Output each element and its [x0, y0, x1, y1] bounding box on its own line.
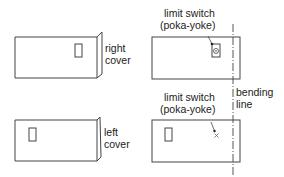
- top-fixture: [152, 36, 240, 79]
- top-callout-line2: (poka-yoke): [160, 19, 215, 31]
- right-cover-label-line2: cover: [105, 54, 131, 66]
- bottom-callout-line1: limit switch: [164, 91, 215, 103]
- top-fixture-plate: [152, 37, 240, 79]
- left-cover-part: [15, 117, 101, 161]
- top-callout-line1: limit switch: [164, 7, 215, 19]
- left-cover-bent-edge: [97, 117, 101, 161]
- right-cover-part: [15, 32, 102, 78]
- right-cover-label-line1: right: [105, 42, 126, 54]
- limit-switch-center-dot: [215, 50, 217, 52]
- bottom-callout-arrowhead: [213, 130, 215, 132]
- bottom-callout-line2: (poka-yoke): [160, 103, 215, 115]
- right-cover-hole: [75, 44, 82, 57]
- bottom-fixture-hole: [165, 128, 172, 141]
- left-cover-label-line2: cover: [104, 138, 130, 150]
- bending-line-label-line2: line: [236, 98, 253, 110]
- left-cover-label-line1: left: [104, 126, 118, 138]
- bending-line-label-line1: bending: [236, 86, 274, 98]
- poka-yoke-diagram: right cover limit switch (poka-yoke) lef…: [0, 0, 284, 177]
- left-cover-body: [15, 120, 97, 161]
- top-callout-arrowhead: [211, 43, 214, 46]
- right-cover-bent-edge: [97, 32, 102, 78]
- right-cover-body: [15, 37, 97, 78]
- limit-switch-position-x-icon: [215, 134, 219, 138]
- left-cover-hole: [29, 128, 36, 141]
- bottom-fixture: [152, 120, 240, 162]
